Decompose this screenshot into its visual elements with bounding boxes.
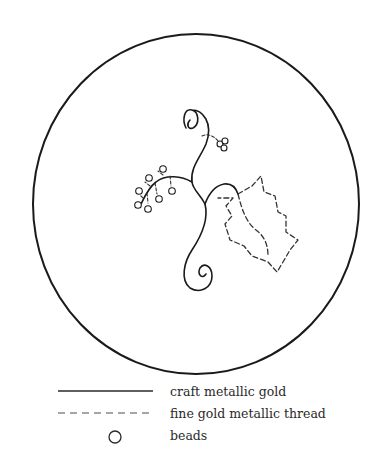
- bead: [145, 206, 152, 213]
- legend-label-solid: craft metallic gold: [170, 384, 286, 399]
- embroidery-pattern-diagram: craft metallic gold fine gold metallic t…: [0, 0, 388, 471]
- vine-design: [135, 110, 298, 291]
- legend-bead-symbol: [109, 431, 121, 443]
- bead: [160, 166, 167, 173]
- bead: [135, 202, 142, 209]
- holly-leaf-vein: [238, 194, 268, 256]
- bead: [146, 175, 153, 182]
- main-stem-upper: [184, 110, 209, 204]
- bead: [156, 196, 163, 203]
- legend: craft metallic gold fine gold metallic t…: [58, 384, 326, 443]
- bead: [221, 145, 227, 151]
- main-stem-lower: [184, 204, 212, 290]
- legend-label-beads: beads: [170, 428, 207, 443]
- bead: [169, 188, 176, 195]
- right-branch: [205, 184, 238, 204]
- bead: [136, 188, 143, 195]
- holly-leaf: [218, 176, 298, 272]
- bead: [222, 138, 228, 144]
- legend-label-dashed: fine gold metallic thread: [170, 406, 326, 421]
- hoop-circle: [33, 34, 359, 374]
- beads: [135, 138, 228, 212]
